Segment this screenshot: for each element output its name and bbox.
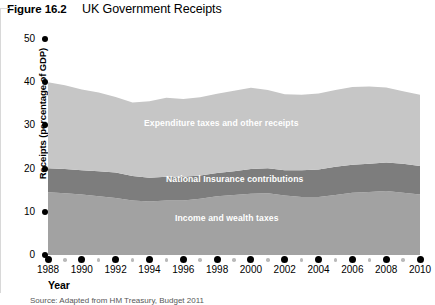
x-tick-dot-1994 [146, 256, 153, 263]
y-tick-label-10: 10 [5, 206, 35, 218]
x-minor-dot-1993 [131, 258, 135, 262]
x-minor-dot-1989 [63, 258, 67, 262]
x-tick-dot-2006 [349, 256, 356, 263]
band-label-income-wealth-taxes: Income and wealth taxes [175, 213, 279, 223]
header-rule-horizontal [0, 8, 9, 9]
figure-title: UK Government Receipts [82, 2, 222, 16]
x-tick-dot-2002 [281, 256, 288, 263]
x-tick-label-2010: 2010 [400, 264, 435, 275]
x-tick-dot-1992 [112, 256, 119, 263]
area-band-2 [48, 82, 420, 177]
figure-header: Figure 16.2 UK Government Receipts [7, 1, 222, 16]
x-minor-dot-1999 [232, 258, 236, 262]
x-axis-title: Year [48, 279, 70, 291]
y-tick-label-0: 0 [5, 249, 35, 261]
x-tick-dot-1998 [214, 256, 221, 263]
y-tick-label-50: 50 [5, 33, 35, 45]
x-minor-dot-1995 [165, 258, 169, 262]
source-note: Source: Adapted from HM Treasury, Budget… [30, 296, 204, 305]
x-minor-dot-2007 [368, 258, 372, 262]
x-tick-dot-2008 [383, 256, 390, 263]
x-tick-dot-1990 [78, 256, 85, 263]
x-minor-dot-2009 [401, 258, 405, 262]
band-label-national-insurance: National Insurance contributions [166, 174, 303, 184]
x-minor-dot-2001 [266, 258, 270, 262]
y-tick-0: 0 [0, 249, 48, 261]
area-band-0 [48, 191, 420, 255]
y-axis-title: Receipts (percentage of GDP) [37, 19, 48, 209]
band-label-expenditure-taxes: Expenditure taxes and other receipts [144, 118, 299, 128]
y-tick-label-20: 20 [5, 163, 35, 175]
x-tick-dot-1996 [180, 256, 187, 263]
x-minor-dot-1997 [198, 258, 202, 262]
x-tick-dot-2010 [417, 256, 424, 263]
x-tick-dot-2004 [315, 256, 322, 263]
x-minor-dot-2003 [300, 258, 304, 262]
figure-number: Figure 16.2 [7, 3, 67, 15]
y-tick-label-30: 30 [5, 119, 35, 131]
x-minor-dot-2005 [334, 258, 338, 262]
x-tick-dot-1988 [45, 256, 52, 263]
x-minor-dot-1991 [97, 258, 101, 262]
y-tick-label-40: 40 [5, 76, 35, 88]
x-tick-dot-2000 [247, 256, 254, 263]
